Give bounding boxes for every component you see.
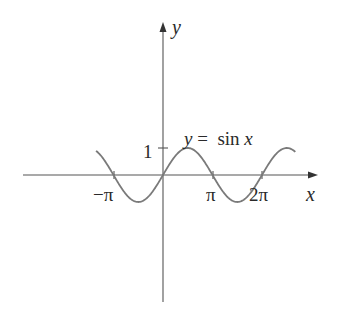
eq-y: y [182,128,193,149]
x-axis-label: x [305,183,315,205]
y-axis-label: y [170,16,181,39]
function-annotation: y = sin x [182,128,253,149]
eq-x: x [243,128,253,149]
sine-graph: y x 1 −π π 2π y = sin x [0,0,346,321]
y-axis-arrow-icon [160,22,167,32]
x-tick-label-pi: π [206,184,216,205]
y-tick-label-1: 1 [143,141,153,162]
x-tick-label-2pi: 2π [249,184,269,205]
x-tick-label-neg-pi: −π [93,184,114,205]
eq-rest: = sin [192,128,244,149]
x-axis-arrow-icon [308,172,318,179]
